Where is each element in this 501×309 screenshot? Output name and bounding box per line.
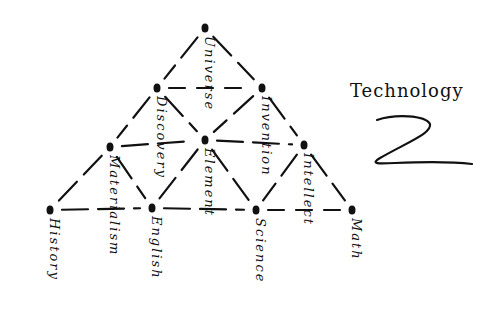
z-symbol [376, 116, 472, 164]
label-english: English [149, 216, 164, 280]
label-discovery: Discovery [154, 96, 169, 179]
label-science: Science [253, 218, 268, 283]
edge-universe-invention [213, 37, 253, 80]
label-element: Element [202, 148, 217, 217]
triangle-diagram [0, 0, 501, 309]
edge-discovery-element [165, 97, 197, 131]
node-english [149, 204, 156, 213]
label-intellect: Intellect [301, 153, 316, 226]
label-history: History [47, 218, 62, 281]
edge-history-english [62, 208, 140, 210]
edge-universe-discovery [164, 37, 197, 78]
node-element [202, 136, 209, 145]
label-math: Math [349, 218, 364, 261]
edge-element-intellect [217, 141, 292, 145]
edge-discovery-materialism [117, 97, 149, 137]
edge-invention-element [214, 96, 253, 132]
edge-intellect-math [311, 155, 345, 201]
node-history [47, 206, 54, 215]
node-materialism [107, 143, 114, 152]
label-universe: Universe [202, 36, 217, 111]
node-intellect [301, 141, 308, 150]
node-universe [202, 24, 209, 33]
node-invention [259, 84, 266, 93]
technology-title: Technology [350, 80, 464, 101]
node-discovery [154, 84, 161, 93]
edge-materialism-history [58, 156, 101, 202]
label-materialism: Materialism [107, 155, 122, 256]
label-invention: Invention [259, 96, 274, 177]
node-science [253, 206, 260, 215]
edge-element-science [212, 150, 249, 201]
node-math [349, 206, 356, 215]
